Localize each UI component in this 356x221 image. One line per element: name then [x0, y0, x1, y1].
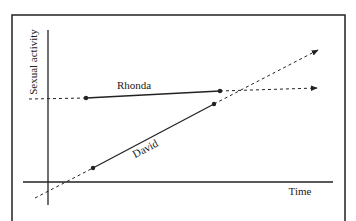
- x-axis-label: Time: [289, 185, 312, 197]
- david-extrapolation-right: [214, 50, 318, 104]
- rhonda-line: [86, 91, 220, 98]
- rhonda-start-point: [84, 96, 88, 100]
- rhonda-extrapolation-left: [29, 98, 86, 99]
- y-axis-label: Sexual activity: [27, 29, 39, 95]
- david-line: [93, 104, 214, 168]
- rhonda-extrapolation-right: [220, 88, 317, 91]
- david-extrapolation-left: [35, 168, 93, 198]
- david-start-point: [91, 166, 95, 170]
- rhonda-label: Rhonda: [117, 79, 151, 91]
- rhonda-end-point: [218, 89, 222, 93]
- david-end-point: [212, 102, 216, 106]
- diagram-canvas: Sexual activity Time Rhonda David: [0, 0, 356, 221]
